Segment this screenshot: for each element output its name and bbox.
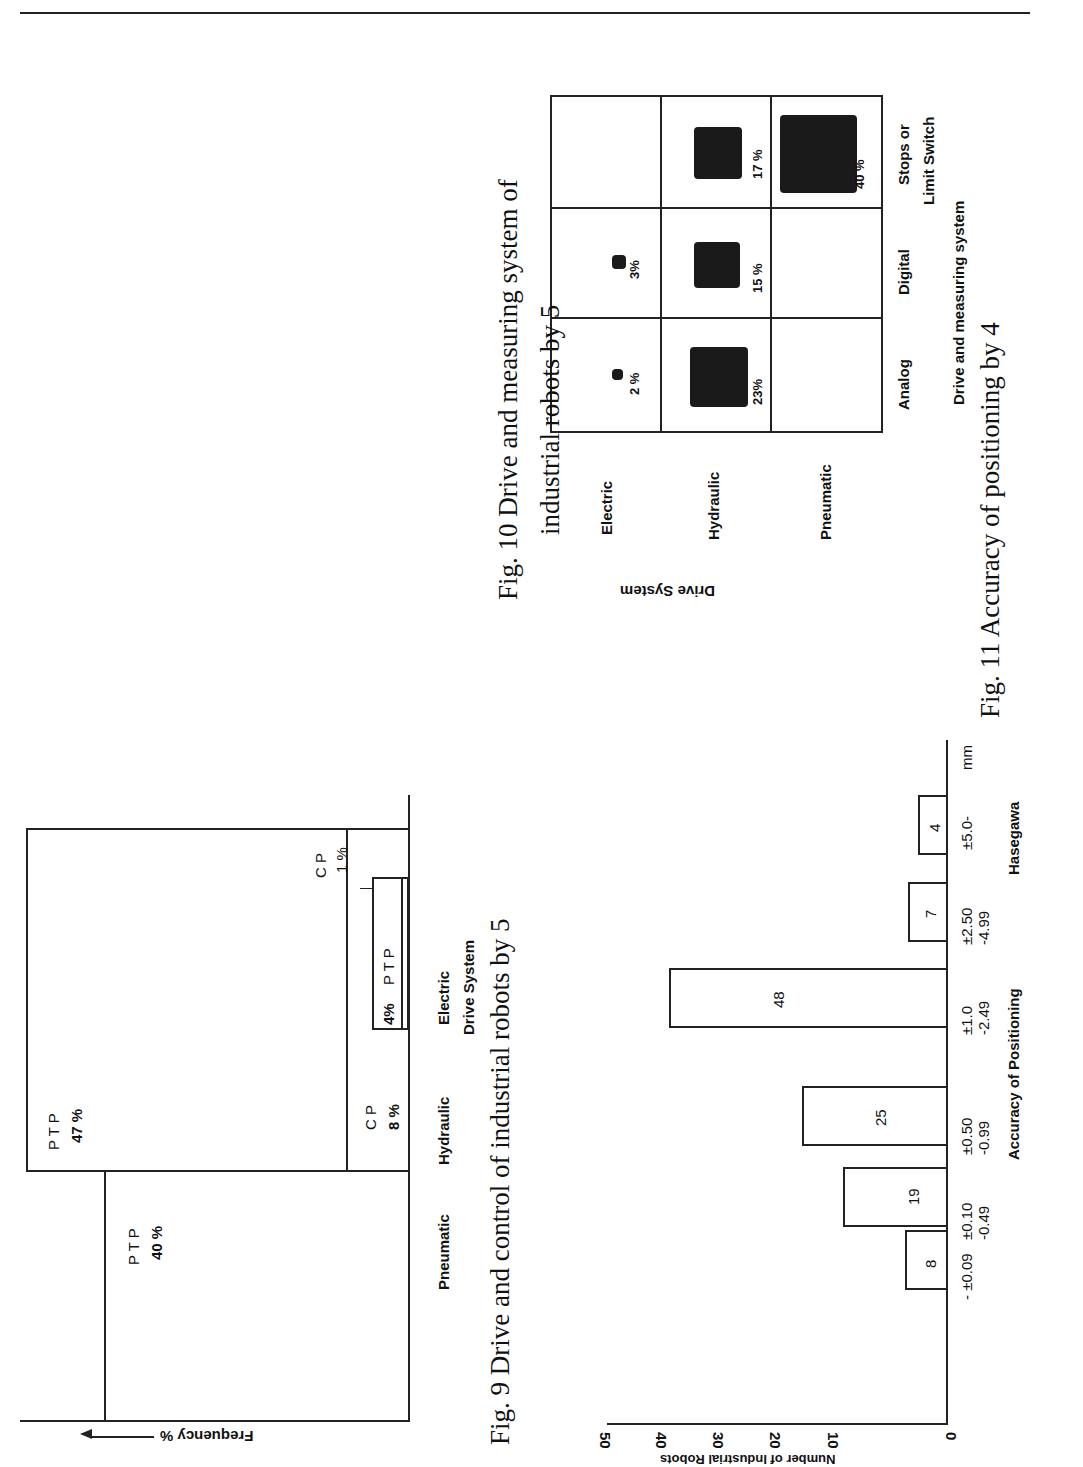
fig11-value-2: 25 [872, 1109, 889, 1126]
fig9-hydraulic-cp-pct: 8 % [385, 1104, 402, 1130]
grid-divider [770, 97, 772, 431]
fig11-value-0: 8 [922, 1260, 939, 1268]
hydraulic-analog-pct: 23% [750, 379, 765, 405]
fig11-value-5: 4 [926, 824, 943, 832]
fig10-col-axis-title: Drive and measuring system [950, 201, 967, 405]
fig9-cat-electric: Electric [435, 971, 452, 1025]
fig10-grid: 2 % 3% 23% 15 % 17 % 40 % [550, 95, 883, 433]
electric-digital-square [612, 255, 626, 269]
fig11-x-axis-label: Accuracy of Positioning [1005, 988, 1022, 1160]
fig9-y-axis-label: Frequency % [160, 1428, 253, 1445]
fig10-caption-line2: industrial robots by 5 [535, 305, 566, 535]
fig11-value-1: 19 [905, 1188, 922, 1205]
grid-divider [552, 207, 881, 209]
fig10-row-electric: Electric [598, 481, 615, 535]
fig9-cat-hydraulic: Hydraulic [435, 1097, 452, 1165]
fig11-y-axis [607, 1423, 947, 1425]
fig9-caption: Fig. 9 Drive and control of industrial r… [485, 919, 516, 1445]
fig9-hydraulic-ptp-label: P T P [45, 1113, 62, 1150]
fig11-cat-1: ±0.10 -0.49 [958, 1180, 992, 1240]
grid-divider [660, 97, 662, 431]
hydraulic-stops-square [694, 127, 742, 179]
fig10-col-stops: Stops or [895, 124, 912, 185]
grid-divider [552, 317, 881, 319]
fig11-ytick-20: 20 [767, 1432, 784, 1449]
hydraulic-analog-square [690, 347, 748, 407]
fig11-cat-3: ±1.0 -2.49 [958, 975, 992, 1035]
fig9-electric-ptp-label: P T P [380, 948, 397, 985]
fig11-cat-2: ±0.50 -0.99 [958, 1095, 992, 1155]
fig9-hydraulic-ptp-pct: 47 % [68, 1109, 85, 1143]
fig11-ytick-50: 50 [597, 1432, 614, 1449]
fig11-ytick-40: 40 [653, 1432, 670, 1449]
fig11-bar-1 [843, 1167, 948, 1227]
fig11-value-4: 7 [922, 910, 939, 918]
fig10-row-hydraulic: Hydraulic [705, 472, 722, 540]
fig11-y-axis-label: Number of Industrial Robots [660, 1452, 836, 1467]
fig9-cp-leader [360, 888, 372, 889]
fig10-row-axis-title: Drive System [620, 583, 715, 600]
fig11-bar-3 [669, 968, 948, 1028]
fig11-cat-0: - ±0.09 [958, 1253, 975, 1300]
fig11-cat-4: ±2.50 -4.99 [958, 885, 992, 945]
fig9-arrow-shaft [90, 1436, 154, 1438]
fig10-col-analog: Analog [895, 359, 912, 410]
pneumatic-stops-pct: 40 % [852, 159, 867, 189]
fig9-electric-cp-pct: 1 % [333, 847, 350, 873]
fig11-unit: mm [958, 745, 975, 770]
hydraulic-digital-pct: 15 % [750, 263, 765, 293]
fig9-electric-ptp-pct: 4% [380, 1003, 397, 1025]
fig10-caption-line1: Fig. 10 Drive and measuring system of [493, 179, 524, 600]
fig11-value-3: 48 [770, 991, 787, 1008]
fig11-credit: Hasegawa [1005, 802, 1022, 875]
fig11-caption: Fig. 11 Accuracy of positioning by 4 [975, 322, 1006, 718]
electric-digital-pct: 3% [627, 260, 642, 279]
fig9-x-axis-title: Drive System [460, 940, 477, 1035]
hydraulic-stops-pct: 17 % [750, 149, 765, 179]
fig11-ytick-30: 30 [710, 1432, 727, 1449]
fig9-cat-pneumatic: Pneumatic [435, 1214, 452, 1290]
fig10-col-limit-switch: Limit Switch [920, 117, 937, 205]
fig11-cat-5: ±5.0- [958, 816, 975, 850]
fig9-electric-cp-label: C P [312, 853, 329, 878]
fig11-ytick-10: 10 [825, 1432, 842, 1449]
fig9-pneumatic-ptp-pct: 40 % [148, 1226, 165, 1260]
fig9-bar-electric-cp [401, 877, 409, 1030]
electric-analog-pct: 2 % [627, 373, 642, 395]
fig10-row-pneumatic: Pneumatic [817, 464, 834, 540]
pneumatic-stops-square [780, 115, 857, 193]
electric-analog-square [612, 369, 623, 380]
arrow-left-icon [80, 1429, 92, 1439]
fig11-ytick-0: 0 [943, 1432, 960, 1440]
fig9-bar-pneumatic-ptp [104, 1170, 410, 1422]
fig9-hydraulic-cp-label: C P [362, 1105, 379, 1130]
fig9-pneumatic-ptp-label: P T P [125, 1228, 142, 1265]
header-rule [20, 12, 1030, 14]
hydraulic-digital-square [694, 242, 740, 288]
fig10-col-digital: Digital [895, 249, 912, 295]
